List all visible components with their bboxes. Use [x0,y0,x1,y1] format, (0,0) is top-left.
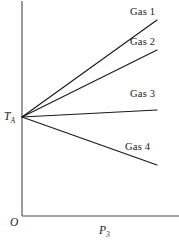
gas1-label: Gas 1 [130,7,155,18]
gas1-line [22,20,157,117]
gas2-line [22,50,157,117]
x-axis-label-sub: 3 [106,230,110,239]
x-axis-label: P3 [99,225,110,237]
y-axis-label-sub: A [10,116,15,125]
gas2-label: Gas 2 [130,37,155,48]
gas3-line [22,110,157,117]
origin-label: O [10,217,18,229]
gas3-label: Gas 3 [130,89,155,100]
x-axis-label-main: P [99,224,106,236]
gas4-label: Gas 4 [125,142,150,153]
gas-thermometer-figure: Gas 1 Gas 2 Gas 3 Gas 4 TA P3 O [0,0,179,240]
y-axis-label: TA [4,111,15,123]
